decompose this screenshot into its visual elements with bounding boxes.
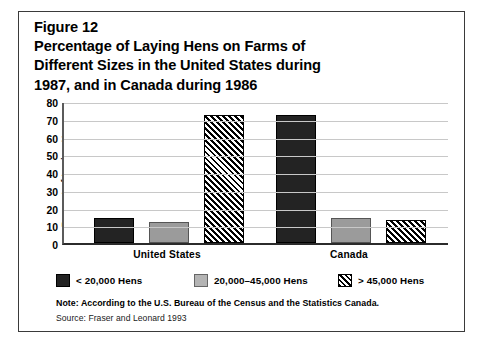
bar xyxy=(94,218,134,243)
title-line-1: Figure 12 xyxy=(34,18,434,37)
y-tick-label: 70 xyxy=(46,115,58,126)
gridline xyxy=(64,227,448,228)
gridline xyxy=(64,103,448,104)
gridline xyxy=(64,121,448,122)
title-line-4: 1987, and in Canada during 1986 xyxy=(34,76,434,95)
y-tick-label: 60 xyxy=(46,133,58,144)
y-tick-label: 50 xyxy=(46,151,58,162)
y-tick-label: 20 xyxy=(46,204,58,215)
gridline xyxy=(64,192,448,193)
figure-container: Figure 12 Percentage of Laying Hens on F… xyxy=(0,0,481,343)
x-category-label: United States xyxy=(82,249,252,260)
legend-item: < 20,000 Hens xyxy=(56,272,142,288)
bar xyxy=(276,115,316,243)
plot-area xyxy=(62,103,448,245)
legend-item: > 45,000 Hens xyxy=(338,272,424,288)
title-line-3: Different Sizes in the United States dur… xyxy=(34,56,434,75)
y-tick-label: 40 xyxy=(46,169,58,180)
legend-label: < 20,000 Hens xyxy=(76,275,142,286)
y-tick-label: 10 xyxy=(46,222,58,233)
bar xyxy=(331,218,371,243)
legend-swatch-icon xyxy=(56,274,70,287)
bar-chart: Percent of Laying Hens 01020304050607080… xyxy=(26,103,456,253)
gridline xyxy=(64,156,448,157)
bar-group xyxy=(64,103,448,243)
figure-note: Note: According to the U.S. Bureau of th… xyxy=(56,298,379,308)
title-line-2: Percentage of Laying Hens on Farms of xyxy=(34,37,434,56)
legend-item: 20,000–45,000 Hens xyxy=(194,272,308,288)
figure-source: Source: Fraser and Leonard 1993 xyxy=(56,313,187,323)
gridline xyxy=(64,139,448,140)
gridline xyxy=(64,210,448,211)
chart-legend: < 20,000 Hens20,000–45,000 Hens> 45,000 … xyxy=(26,272,456,290)
y-tick-label: 30 xyxy=(46,186,58,197)
legend-divider xyxy=(26,266,456,267)
legend-label: 20,000–45,000 Hens xyxy=(214,275,308,286)
bar xyxy=(386,220,426,243)
legend-swatch-icon xyxy=(194,274,208,287)
bar xyxy=(149,222,189,243)
y-axis-ticks: 01020304050607080 xyxy=(32,103,58,245)
legend-swatch-icon xyxy=(338,274,352,287)
legend-label: > 45,000 Hens xyxy=(358,275,424,286)
x-category-label: Canada xyxy=(264,249,434,260)
gridline xyxy=(64,174,448,175)
y-tick-label: 80 xyxy=(46,98,58,109)
y-tick-label: 0 xyxy=(52,240,58,251)
figure-title: Figure 12 Percentage of Laying Hens on F… xyxy=(34,18,434,95)
bar xyxy=(204,115,244,243)
